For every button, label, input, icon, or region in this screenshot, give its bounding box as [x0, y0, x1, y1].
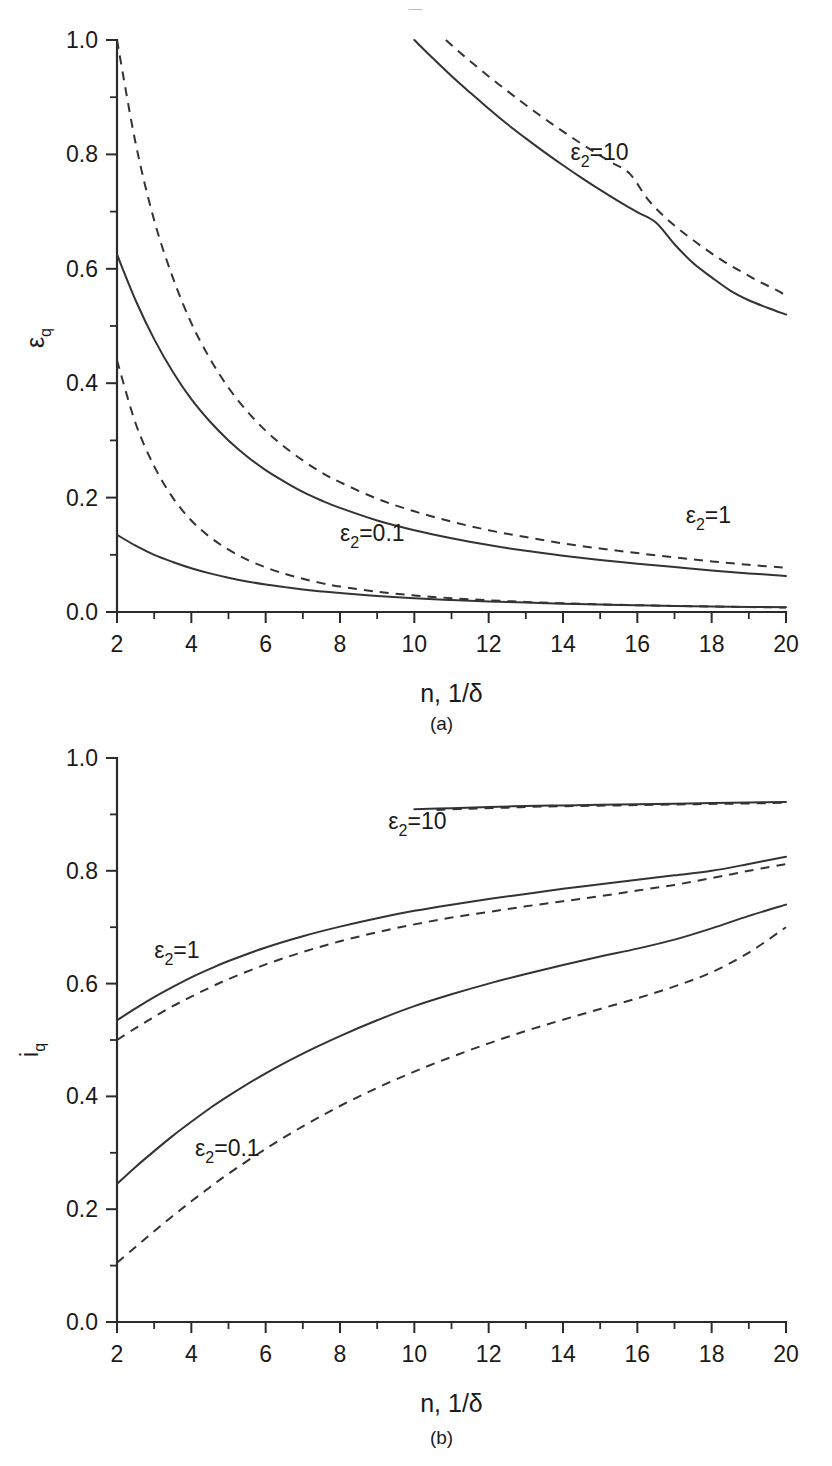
y-tick-label: 0.6 [66, 971, 98, 997]
curve-annotation: ε2=0.1 [195, 1135, 260, 1166]
plot-a-text: 0.00.20.40.60.81.02468101214161820ε2=10ε… [21, 27, 799, 734]
data-curve [117, 40, 786, 568]
axis-lines [117, 758, 786, 1322]
x-tick-label: 10 [402, 1341, 428, 1367]
x-tick-label: 20 [773, 1341, 799, 1367]
svg-text:iq: iq [15, 1043, 48, 1057]
panel-caption: (a) [430, 713, 453, 734]
x-tick-label: 2 [111, 631, 124, 657]
y-tick-label: 0.6 [66, 256, 98, 282]
plot-b-svg: 0.00.20.40.60.81.02468101214161820ε2=10ε… [0, 738, 832, 1466]
curve-annotation: ε2=1 [686, 502, 731, 533]
data-curve [117, 535, 786, 608]
y-tick-label: 1.0 [66, 27, 98, 53]
x-tick-label: 18 [699, 631, 725, 657]
x-tick-label: 8 [334, 1341, 347, 1367]
y-tick-label: 0.2 [66, 1196, 98, 1222]
curve-annotation: ε2=1 [154, 937, 199, 968]
x-axis-title: n, 1/δ [420, 679, 483, 707]
x-tick-label: 18 [699, 1341, 725, 1367]
y-axis-title: εq [21, 328, 54, 348]
plot-b-curves [117, 802, 786, 1263]
y-tick-label: 0.4 [66, 1083, 98, 1109]
curve-annotation: ε2=10 [388, 808, 446, 839]
x-tick-label: 8 [334, 631, 347, 657]
y-tick-label: 1.0 [66, 745, 98, 771]
plot-b-text: 0.00.20.40.60.81.02468101214161820ε2=10ε… [15, 745, 799, 1448]
svg-text:εq: εq [21, 328, 54, 348]
x-tick-label: 10 [402, 631, 428, 657]
figure-panel-a: 0.00.20.40.60.81.02468101214161820ε2=10ε… [0, 18, 832, 738]
data-curve [117, 927, 786, 1263]
data-curve [414, 40, 786, 315]
x-tick-label: 4 [185, 1341, 198, 1367]
x-tick-label: 14 [550, 631, 576, 657]
plot-a-svg: 0.00.20.40.60.81.02468101214161820ε2=10ε… [0, 18, 832, 738]
curve-annotation: ε2=0.1 [340, 520, 405, 551]
x-tick-label: 12 [476, 631, 502, 657]
y-tick-label: 0.0 [66, 599, 98, 625]
figure-page: — 0.00.20.40.60.81.02468101214161820ε2=1… [0, 0, 832, 1466]
x-tick-label: 16 [625, 631, 651, 657]
data-curve [117, 864, 786, 1040]
x-tick-label: 16 [625, 1341, 651, 1367]
data-curve [446, 40, 786, 296]
x-tick-label: 2 [111, 1341, 124, 1367]
y-tick-label: 0.4 [66, 370, 98, 396]
y-tick-label: 0.8 [66, 141, 98, 167]
y-tick-label: 0.0 [66, 1309, 98, 1335]
plot-b-axes [106, 758, 786, 1333]
y-axis-title: iq [15, 1043, 48, 1057]
x-tick-label: 20 [773, 631, 799, 657]
curve-annotation: ε2=10 [570, 139, 628, 170]
x-tick-label: 4 [185, 631, 198, 657]
x-axis-title: n, 1/δ [420, 1389, 483, 1417]
x-tick-label: 14 [550, 1341, 576, 1367]
panel-caption: (b) [430, 1427, 453, 1448]
data-curve [117, 360, 786, 607]
x-tick-label: 12 [476, 1341, 502, 1367]
y-tick-label: 0.8 [66, 858, 98, 884]
figure-panel-b: 0.00.20.40.60.81.02468101214161820ε2=10ε… [0, 738, 832, 1466]
x-tick-label: 6 [259, 631, 272, 657]
x-tick-label: 6 [259, 1341, 272, 1367]
scan-artifact-text: — [0, 0, 832, 18]
data-curve [117, 857, 786, 1021]
y-tick-label: 0.2 [66, 485, 98, 511]
